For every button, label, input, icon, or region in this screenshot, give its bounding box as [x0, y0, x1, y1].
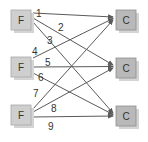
target-node-1: C: [116, 10, 139, 33]
edge-label-1: 1: [36, 8, 42, 19]
target-node-2: C: [116, 58, 139, 81]
edge-arrow-6: [33, 73, 113, 115]
edge-label-3: 3: [47, 35, 53, 46]
node-label: C: [122, 15, 129, 26]
edge-arrow-8: [33, 68, 113, 112]
edge-arrow-4: [33, 19, 113, 59]
node-label: C: [122, 111, 129, 122]
edge-label-4: 4: [32, 46, 38, 57]
edge-label-5: 5: [45, 57, 51, 68]
edge-label-9: 9: [48, 121, 54, 132]
node-label: F: [18, 110, 24, 121]
transport-network-diagram: 123456789 FFFCCC: [0, 0, 148, 142]
source-node-2: F: [11, 57, 34, 80]
edge-label-8: 8: [51, 103, 57, 114]
target-node-3: C: [116, 106, 139, 129]
edge-label-2: 2: [58, 22, 64, 33]
source-node-1: F: [11, 10, 34, 33]
edge-label-7: 7: [33, 88, 39, 99]
node-label: F: [18, 62, 24, 73]
edge-arrow-9: [33, 116, 113, 117]
edge-label-6: 6: [38, 72, 44, 83]
node-label: C: [122, 63, 129, 74]
source-node-3: F: [11, 105, 34, 128]
node-label: F: [18, 15, 24, 26]
edge-arrow-1: [33, 13, 113, 17]
